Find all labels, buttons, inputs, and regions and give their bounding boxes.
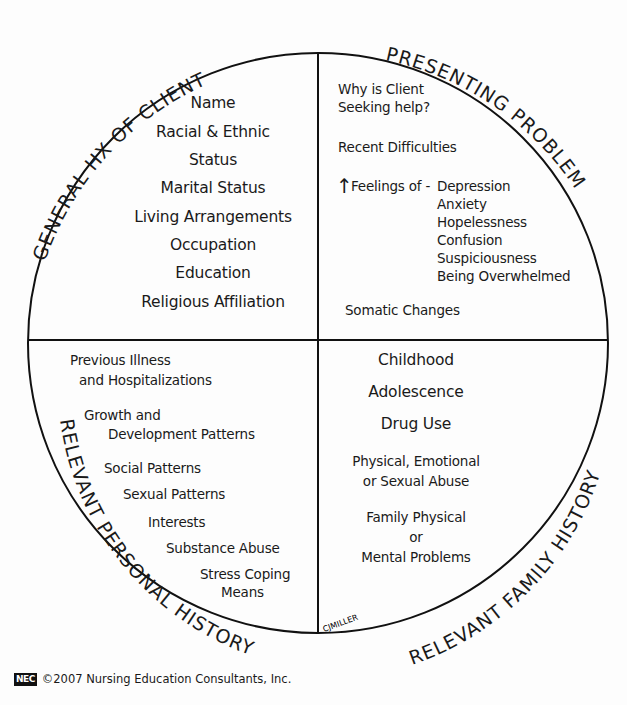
title-family-history: RELEVANT FAMILY HISTORY [406, 467, 605, 669]
list-item: Racial & Ethnic [156, 124, 270, 142]
list-item: Interests [148, 515, 205, 531]
title-general-hx: GENERAL HX OF CLIENT [28, 68, 209, 264]
list-item: Mental Problems [361, 550, 470, 566]
list-item: Status [189, 152, 237, 170]
list-item: Education [175, 265, 250, 283]
list-item: Childhood [378, 352, 454, 370]
list-item: Family Physical [366, 510, 466, 526]
list-item: Stress Coping [200, 567, 290, 583]
list-item: Occupation [170, 237, 256, 255]
list-item: Living Arrangements [134, 209, 292, 227]
list-item: Development Patterns [108, 427, 255, 443]
list-item: Suspiciousness [437, 251, 537, 267]
list-item: Adolescence [368, 384, 463, 402]
list-item: Substance Abuse [166, 541, 280, 557]
list-item: Anxiety [437, 197, 487, 213]
list-item: Previous Illness [70, 353, 171, 369]
list-item: Social Patterns [104, 461, 201, 477]
list-item: Depression [437, 179, 510, 195]
list-item: Being Overwhelmed [437, 269, 571, 285]
title-personal-history: RELEVANT PERSONAL HISTORY [56, 417, 258, 659]
list-item: Means [221, 585, 264, 601]
list-item: Growth and [84, 408, 161, 424]
list-item: Why is Client [338, 82, 424, 98]
list-item: Drug Use [381, 416, 451, 434]
list-item: or [409, 530, 422, 546]
copyright-text: ©2007 Nursing Education Consultants, Inc… [42, 672, 292, 686]
list-item: Sexual Patterns [123, 487, 225, 503]
list-item: Confusion [437, 233, 502, 249]
title-presenting-problem: PRESENTING PROBLEM [384, 42, 591, 192]
list-item: Recent Difficulties [338, 140, 457, 156]
copyright-footer: NEC ©2007 Nursing Education Consultants,… [14, 672, 291, 686]
list-item: and Hospitalizations [79, 373, 212, 389]
nec-logo: NEC [14, 673, 37, 686]
list-item: Seeking help? [338, 100, 430, 116]
list-item: Marital Status [161, 180, 266, 198]
list-item: Hopelessness [437, 215, 527, 231]
list-item: Feelings of - [351, 179, 430, 195]
list-item: Physical, Emotional [352, 454, 480, 470]
list-item: Name [191, 95, 236, 113]
list-item: Religious Affiliation [141, 294, 285, 312]
list-item: Somatic Changes [345, 303, 460, 319]
list-item: or Sexual Abuse [363, 474, 469, 490]
